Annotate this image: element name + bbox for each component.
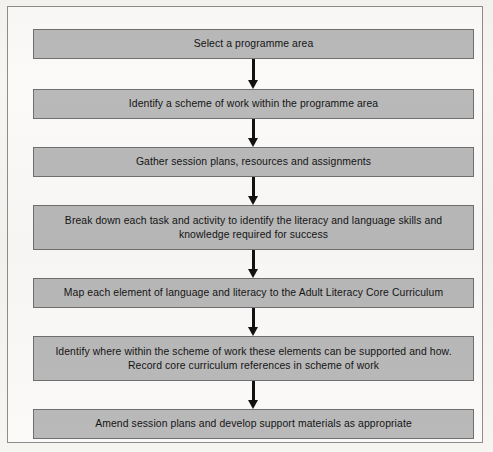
arrow-head-icon (248, 80, 258, 89)
flow-node-label: Gather session plans, resources and assi… (44, 155, 463, 169)
scanned-page: Select a programme area Identify a schem… (0, 0, 493, 452)
arrow-head-icon (248, 138, 258, 147)
arrow-head-icon (248, 269, 258, 278)
flow-node-step-4: Break down each task and activity to ide… (33, 205, 474, 250)
flow-node-step-7: Amend session plans and develop support … (33, 409, 474, 439)
arrow-head-icon (248, 327, 258, 336)
flow-node-label: Break down each task and activity to ide… (44, 214, 463, 242)
arrow-shaft (252, 177, 255, 196)
arrow-shaft (252, 250, 255, 269)
flow-node-step-5: Map each element of language and literac… (33, 278, 474, 308)
flow-node-label: Map each element of language and literac… (44, 286, 463, 300)
flow-connector-5-6 (252, 308, 256, 336)
arrow-shaft (252, 119, 255, 138)
arrow-head-icon (248, 400, 258, 409)
arrow-shaft (252, 308, 255, 327)
flow-node-label: Identify where within the scheme of work… (44, 345, 463, 373)
flow-node-step-6: Identify where within the scheme of work… (33, 336, 474, 381)
flow-node-label: Amend session plans and develop support … (44, 417, 463, 431)
flow-node-label: Select a programme area (44, 37, 463, 51)
flow-node-step-3: Gather session plans, resources and assi… (33, 147, 474, 177)
flow-node-step-2: Identify a scheme of work within the pro… (33, 89, 474, 119)
flow-connector-2-3 (252, 119, 256, 147)
arrow-shaft (252, 59, 255, 80)
flow-connector-6-7 (252, 381, 256, 409)
flow-connector-1-2 (252, 59, 256, 89)
arrow-head-icon (248, 196, 258, 205)
flow-connector-4-5 (252, 250, 256, 278)
arrow-shaft (252, 381, 255, 400)
diagram-frame: Select a programme area Identify a schem… (7, 6, 483, 443)
flowchart: Select a programme area Identify a schem… (33, 29, 474, 431)
flow-node-step-1: Select a programme area (33, 29, 474, 59)
flow-connector-3-4 (252, 177, 256, 205)
flow-node-label: Identify a scheme of work within the pro… (44, 97, 463, 111)
